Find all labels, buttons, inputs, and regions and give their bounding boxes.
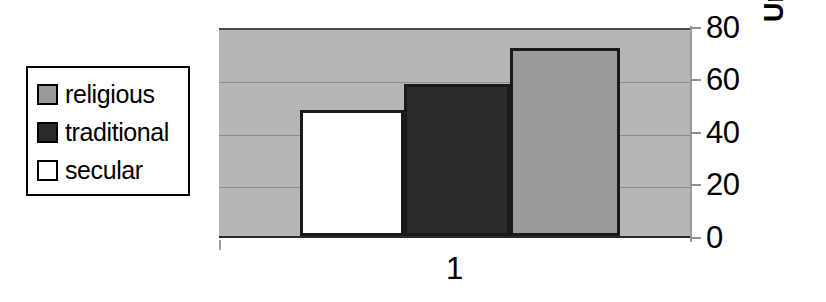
chart-legend: religious traditional secular [26,66,190,196]
y-tick-mark-80 [690,27,701,29]
y-tick-label-60: 60 [706,64,739,95]
legend-item-religious: religious [37,75,188,113]
y-tick-label-80: 80 [706,12,739,43]
y-tick-mark-0 [690,237,701,239]
y-tick-label-0: 0 [706,222,723,253]
legend-swatch-traditional [37,122,58,143]
bar-group [219,30,690,236]
y-axis-line [690,26,692,242]
bar-religious [510,48,620,236]
x-tick-mark [219,240,221,250]
y-tick-mark-40 [690,132,701,134]
bar-chart: religious traditional secular 80 60 40 2… [0,0,826,302]
legend-item-traditional: traditional [37,113,188,151]
y-tick-label-20: 20 [706,169,739,200]
bar-traditional [404,84,510,236]
legend-item-secular: secular [37,151,188,189]
legend-swatch-religious [37,84,58,105]
x-tick-label-1: 1 [446,251,463,286]
y-axis-title: Unwillingness (%) [744,0,804,60]
legend-swatch-secular [37,160,58,181]
y-tick-mark-60 [690,79,701,81]
y-tick-label-40: 40 [706,117,739,148]
bar-secular [300,110,404,236]
y-tick-mark-20 [690,184,701,186]
plot-area [219,28,690,238]
legend-label-secular: secular [65,158,143,183]
legend-label-religious: religious [65,82,155,107]
legend-label-traditional: traditional [65,120,169,145]
x-axis-labels: 1 [219,252,690,286]
